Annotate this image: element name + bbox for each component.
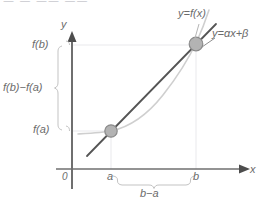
label-f-of-b-minus-f-of-a: f(b)−f(a) [3, 81, 42, 93]
x-axis-arrowhead [239, 165, 250, 174]
x-axis-label: x [250, 163, 256, 175]
y-axis-arrowhead [68, 31, 77, 42]
label-b-minus-a: b−a [140, 187, 159, 199]
point-b [189, 37, 203, 51]
label-b: b [193, 170, 199, 182]
label-a: a [107, 170, 113, 182]
function-curve [78, 10, 209, 134]
y-axis-label: y [61, 18, 67, 30]
line-label-leader [202, 38, 215, 47]
label-curve-equation: y=f(x) [178, 7, 206, 19]
label-f-of-b: f(b) [32, 38, 49, 50]
label-secant-equation: y=αx+β [212, 27, 248, 39]
label-f-of-a: f(a) [33, 123, 50, 135]
brace-fa-tick [66, 126, 70, 131]
brace-fb-minus-fa [55, 46, 63, 130]
origin-label: 0 [62, 171, 68, 182]
point-a [105, 125, 117, 137]
